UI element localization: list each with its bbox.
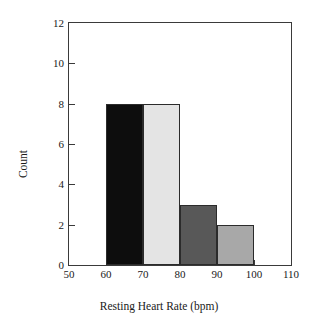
y-axis-tick (69, 184, 75, 185)
x-axis-tick-label: 50 (64, 269, 75, 280)
y-axis-tick (69, 104, 75, 105)
x-axis-title: Resting Heart Rate (bpm) (0, 300, 318, 313)
histogram-bar (217, 225, 254, 265)
y-axis-tick (69, 63, 75, 64)
x-axis-tick-label: 70 (138, 269, 149, 280)
x-axis-tick-label: 110 (283, 269, 299, 280)
bars-layer (69, 23, 291, 265)
histogram-bar (143, 104, 180, 265)
y-axis-tick (69, 225, 75, 226)
histogram-bar (106, 104, 143, 265)
y-axis-tick-label: 2 (59, 219, 65, 230)
y-axis-tick-label: 4 (59, 179, 65, 190)
y-axis-tick-label: 10 (53, 58, 64, 69)
x-axis-tick-label: 100 (246, 269, 263, 280)
y-axis-tick-label: 6 (59, 139, 65, 150)
histogram-bar (180, 205, 217, 266)
x-axis-tick-label: 60 (101, 269, 112, 280)
histogram-figure: 024681012 5060708090100110 Count Resting… (0, 0, 318, 328)
y-axis-tick-label: 8 (59, 98, 65, 109)
plot-area: 024681012 5060708090100110 (68, 22, 292, 266)
y-axis-tick-label: 12 (53, 18, 64, 29)
x-axis-tick (254, 260, 255, 265)
x-axis-tick-label: 80 (175, 269, 186, 280)
y-axis-title: Count (17, 150, 30, 178)
x-axis-tick-label: 90 (212, 269, 223, 280)
y-axis-tick (69, 144, 75, 145)
